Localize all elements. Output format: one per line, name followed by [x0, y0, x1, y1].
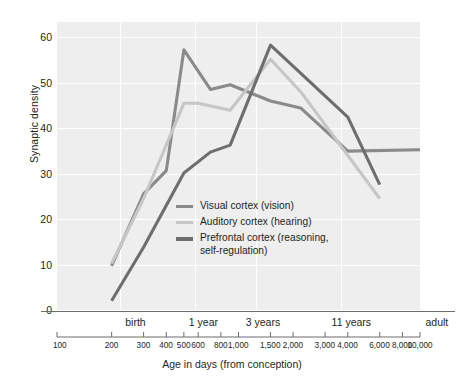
x-tick-label-500: 500	[177, 341, 191, 350]
age-label-birth: birth	[125, 316, 145, 328]
x-tick-label-6000: 6,000	[369, 341, 390, 350]
x-axis-title: Age in days (from conception)	[0, 358, 464, 370]
x-tick-label-300: 300	[137, 341, 151, 350]
x-tick-label-4000: 4,000	[337, 341, 358, 350]
x-tick-label-800: 800	[214, 341, 228, 350]
age-label-3-years: 3 years	[246, 316, 280, 328]
x-tick-label-2000: 2,000	[283, 341, 304, 350]
x-tick-label-1500: 1,500	[260, 341, 281, 350]
x-tick-label-3000: 3,000	[315, 341, 336, 350]
x-tick-label-200: 200	[105, 341, 119, 350]
age-label-1-year: 1 year	[189, 316, 218, 328]
axis-rules	[0, 0, 464, 384]
x-tick-label-400: 400	[159, 341, 173, 350]
x-tick-label-600: 600	[191, 341, 205, 350]
age-label-11-years: 11 years	[332, 316, 372, 328]
synaptic-density-chart: Synaptic density 60 50 40 30 20 10 0 Vis…	[0, 0, 464, 384]
age-label-adult: adult	[426, 316, 449, 328]
x-tick-label-1000: 1,000	[228, 341, 249, 350]
x-tick-label-10000: 10,000	[408, 341, 433, 350]
x-tick-label-100: 100	[53, 341, 67, 350]
